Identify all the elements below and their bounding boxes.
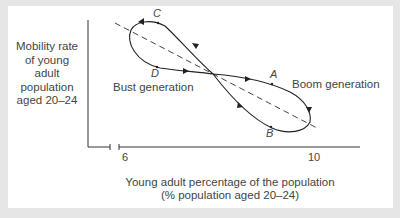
x-tick-6: 6 bbox=[122, 151, 128, 163]
boom-generation-label: Boom generation bbox=[292, 78, 380, 90]
point-b: B bbox=[266, 127, 273, 139]
x-tick-10: 10 bbox=[308, 151, 320, 163]
x-axis bbox=[88, 144, 360, 150]
y-axis-label: Mobility rate of young adult population … bbox=[12, 40, 82, 108]
point-a: A bbox=[270, 68, 277, 80]
direction-arrows bbox=[138, 18, 312, 113]
bust-generation-label: Bust generation bbox=[113, 81, 194, 93]
trend-line bbox=[115, 23, 317, 128]
bust-loop bbox=[130, 22, 213, 74]
x-axis-label: Young adult percentage of the population… bbox=[100, 176, 360, 202]
x-axis-label-line2: (% population aged 20–24) bbox=[100, 189, 360, 202]
point-d: D bbox=[151, 67, 159, 79]
x-axis-label-line1: Young adult percentage of the population bbox=[100, 176, 360, 189]
point-c: C bbox=[153, 7, 161, 19]
